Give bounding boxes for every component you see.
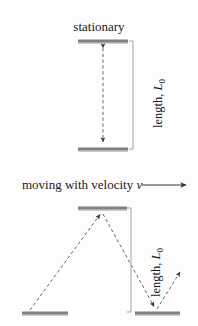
moving-light-path-upleg [30, 215, 100, 311]
moving-length-label: length, L0 [150, 248, 165, 297]
light-clock-diagram: stationary length, L0 moving with veloci… [0, 0, 198, 326]
moving-bottom-mirror-left [22, 312, 68, 316]
stationary-length-label: length, L0 [152, 79, 167, 128]
stationary-bottom-mirror [78, 148, 128, 152]
moving-label: moving with velocity v [22, 178, 142, 191]
length-subscript: 0 [155, 248, 165, 253]
stationary-top-mirror [78, 40, 128, 44]
moving-bottom-mirror-right [135, 312, 180, 316]
length-word: length, [151, 94, 165, 128]
length-word: length, [149, 263, 163, 297]
moving-text: moving with velocity [22, 177, 133, 192]
stationary-label: stationary [0, 20, 198, 33]
length-symbol: L [149, 253, 163, 260]
length-subscript: 0 [157, 79, 167, 84]
diagram-canvas [0, 0, 198, 326]
length-symbol: L [151, 84, 165, 91]
moving-light-path-downleg [103, 214, 154, 307]
velocity-symbol: v [136, 177, 142, 192]
moving-length-bracket [127, 208, 131, 312]
moving-top-mirror [78, 207, 127, 211]
stationary-length-bracket [129, 41, 133, 149]
